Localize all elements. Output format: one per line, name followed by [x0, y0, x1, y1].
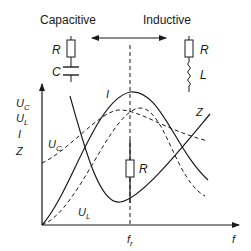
rl-circuit-icon — [185, 36, 193, 92]
resonance-freq-label: fr — [127, 233, 133, 248]
curve-uc-label: UC — [48, 138, 62, 153]
y-label-ul: UL — [16, 112, 28, 127]
rc-circuit-icon — [63, 36, 79, 82]
y-label-z: Z — [15, 145, 24, 157]
y-label-uc: UC — [16, 97, 30, 112]
rl-r-label: R — [200, 43, 209, 57]
capacitive-label: Capacitive — [40, 13, 96, 27]
curve-ul — [42, 108, 205, 225]
axes — [42, 84, 239, 225]
curve-i — [42, 92, 208, 225]
curve-i-label: I — [106, 88, 109, 100]
curve-z — [70, 96, 210, 202]
curve-ul-label: UL — [78, 206, 90, 221]
x-axis-label: f — [232, 233, 236, 245]
resonance-r-label: R — [139, 162, 148, 176]
curve-uc — [42, 110, 208, 163]
rc-c-label: C — [52, 65, 61, 79]
inductive-label: Inductive — [143, 13, 191, 27]
rl-l-label: L — [200, 68, 207, 82]
y-label-i: I — [18, 128, 21, 140]
y-axis-labels: UC UL I Z — [15, 97, 30, 157]
series-resonance-diagram: Capacitive Inductive R C R L UC UL I Z — [0, 0, 251, 251]
curve-z-label: Z — [195, 106, 204, 118]
resonance-resistor-icon — [126, 140, 134, 203]
rc-r-label: R — [52, 43, 61, 57]
